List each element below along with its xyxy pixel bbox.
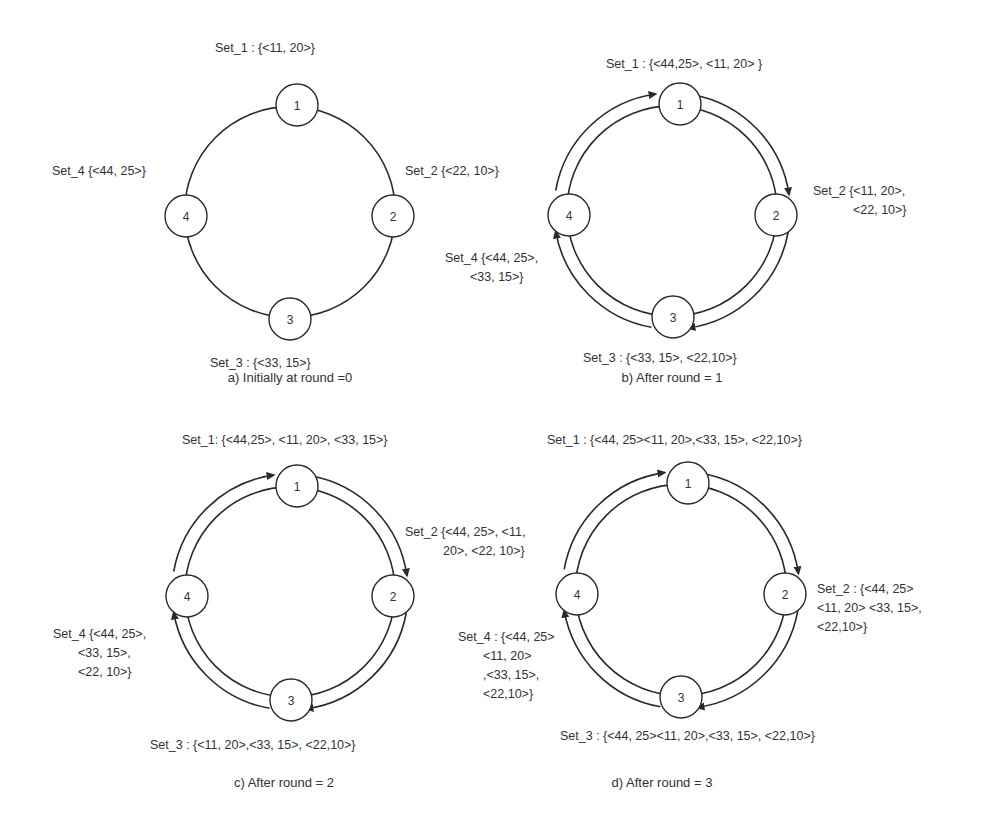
node-1: 1 bbox=[276, 465, 318, 507]
node-label: 2 bbox=[782, 588, 789, 602]
set-label-line: <11, 20> bbox=[483, 649, 531, 663]
arrow-2-to-3 bbox=[698, 611, 798, 708]
node-label: 1 bbox=[294, 99, 301, 113]
set-label-line: <33, 15>} bbox=[470, 270, 524, 284]
set-label-line: Set_3 : {<33, 15>} bbox=[210, 356, 311, 370]
set-label-line: 20>, <22, 10>} bbox=[443, 544, 525, 558]
set-label-line: Set_2 : {<44, 25> bbox=[817, 582, 914, 596]
node-label: 3 bbox=[287, 313, 294, 327]
node-label: 2 bbox=[390, 590, 397, 604]
set-label-line: Set_4 {<44, 25>} bbox=[52, 164, 146, 178]
node-label: 4 bbox=[183, 210, 190, 224]
node-3: 3 bbox=[269, 298, 311, 340]
set-label-set-2: Set_2 {<11, 20>,<22, 10>} bbox=[813, 184, 907, 217]
set-label-set-3: Set_3 : {<44, 25><11, 20>,<33, 15>, <22,… bbox=[560, 729, 815, 743]
node-3: 3 bbox=[652, 296, 694, 338]
set-label-line: Set_1 : {<44,25>, <11, 20> } bbox=[606, 57, 762, 71]
set-label-set-4: Set_4 {<44, 25>,<33, 15>} bbox=[445, 251, 538, 284]
set-label-line: <22,10>} bbox=[817, 620, 867, 634]
node-label: 4 bbox=[574, 588, 581, 602]
set-label-set-4: Set_4 {<44, 25>,<33, 15>,<22, 10>} bbox=[53, 627, 146, 679]
set-label-line: Set_2 {<11, 20>, bbox=[813, 184, 905, 198]
node-4: 4 bbox=[165, 195, 207, 237]
panel-a: 1234Set_1 : {<11, 20>}Set_2 {<22, 10>}Se… bbox=[52, 41, 499, 385]
arrow-3-to-4 bbox=[564, 611, 660, 707]
set-label-line: <22, 10>} bbox=[78, 665, 132, 679]
panel-c: 1234Set_1: {<44,25>, <11, 20>, <33, 15>}… bbox=[53, 433, 525, 790]
node-2: 2 bbox=[764, 573, 806, 615]
node-label: 3 bbox=[670, 311, 677, 325]
ring-edge bbox=[185, 487, 395, 697]
set-label-set-2: Set_2 : {<44, 25><11, 20> <33, 15>,<22,1… bbox=[817, 582, 922, 634]
set-label-set-4: Set_4 {<44, 25>} bbox=[52, 164, 146, 178]
set-label-line: Set_4 {<44, 25>, bbox=[53, 627, 146, 641]
ring-edge bbox=[575, 484, 786, 695]
set-label-set-3: Set_3 : {<33, 15>} bbox=[210, 356, 311, 370]
node-label: 1 bbox=[294, 480, 301, 494]
arrow-2-to-3 bbox=[306, 613, 406, 709]
arrow-3-to-4 bbox=[556, 232, 652, 328]
set-label-set-2: Set_2 {<44, 25>, <11,20>, <22, 10>} bbox=[405, 525, 525, 558]
set-label-line: Set_2 {<22, 10>} bbox=[405, 164, 499, 178]
arrow-1-to-2 bbox=[702, 473, 799, 573]
ring-diagram-figure: 1234Set_1 : {<11, 20>}Set_2 {<22, 10>}Se… bbox=[0, 0, 990, 836]
set-label-line: Set_4 : {<44, 25> bbox=[458, 630, 555, 644]
set-label-line: Set_1 : {<11, 20>} bbox=[215, 41, 315, 55]
set-label-line: <22, 10>} bbox=[853, 203, 907, 217]
set-label-set-1: Set_1 : {<44,25>, <11, 20> } bbox=[606, 57, 762, 71]
node-3: 3 bbox=[270, 679, 312, 721]
ring-edge bbox=[567, 106, 777, 316]
arrow-4-to-1 bbox=[174, 475, 274, 571]
node-label: 4 bbox=[184, 590, 191, 604]
node-label: 1 bbox=[677, 98, 684, 112]
panel-b: 1234Set_1 : {<44,25>, <11, 20> }Set_2 {<… bbox=[445, 57, 907, 385]
set-label-line: Set_3 : {<11, 20>,<33, 15>, <22,10>} bbox=[150, 738, 356, 752]
arrow-2-to-3 bbox=[688, 232, 788, 329]
arrow-4-to-1 bbox=[556, 94, 656, 191]
panel-d: 1234Set_1 : {<44, 25><11, 20>,<33, 15>, … bbox=[458, 433, 922, 790]
arrow-3-to-4 bbox=[174, 613, 270, 709]
node-label: 1 bbox=[685, 477, 692, 491]
set-label-set-1: Set_1 : {<44, 25><11, 20>,<33, 15>, <22,… bbox=[547, 433, 802, 447]
node-4: 4 bbox=[556, 573, 598, 615]
set-label-line: <22,10>} bbox=[483, 687, 533, 701]
set-label-line: Set_3 : {<44, 25><11, 20>,<33, 15>, <22,… bbox=[560, 729, 815, 743]
node-1: 1 bbox=[659, 83, 701, 125]
arrow-4-to-1 bbox=[564, 473, 664, 570]
node-3: 3 bbox=[660, 676, 702, 718]
node-label: 2 bbox=[773, 209, 780, 223]
set-label-line: <33, 15>, bbox=[78, 646, 131, 660]
set-label-set-1: Set_1 : {<11, 20>} bbox=[215, 41, 315, 55]
panel-caption: d) After round = 3 bbox=[612, 775, 713, 790]
node-2: 2 bbox=[372, 195, 414, 237]
set-label-line: Set_1: {<44,25>, <11, 20>, <33, 15>} bbox=[182, 433, 388, 447]
panel-caption: b) After round = 1 bbox=[622, 370, 723, 385]
set-label-line: Set_2 {<44, 25>, <11, bbox=[405, 525, 525, 539]
node-label: 2 bbox=[390, 210, 397, 224]
set-label-set-2: Set_2 {<22, 10>} bbox=[405, 164, 499, 178]
set-label-line: <11, 20> <33, 15>, bbox=[817, 601, 922, 615]
node-2: 2 bbox=[372, 575, 414, 617]
arrow-1-to-2 bbox=[311, 476, 407, 576]
node-label: 4 bbox=[566, 209, 573, 223]
panel-caption: c) After round = 2 bbox=[234, 775, 334, 790]
node-label: 3 bbox=[678, 691, 685, 705]
panel-caption: a) Initially at round =0 bbox=[228, 370, 353, 385]
set-label-line: ,<33, 15>, bbox=[483, 668, 539, 682]
node-1: 1 bbox=[276, 84, 318, 126]
set-label-set-1: Set_1: {<44,25>, <11, 20>, <33, 15>} bbox=[182, 433, 388, 447]
set-label-set-4: Set_4 : {<44, 25><11, 20>,<33, 15>,<22,1… bbox=[458, 630, 555, 701]
set-label-line: Set_1 : {<44, 25><11, 20>,<33, 15>, <22,… bbox=[547, 433, 802, 447]
node-2: 2 bbox=[755, 194, 797, 236]
set-label-line: Set_3 : {<33, 15>, <22,10>} bbox=[583, 351, 737, 365]
set-label-set-3: Set_3 : {<11, 20>,<33, 15>, <22,10>} bbox=[150, 738, 356, 752]
node-4: 4 bbox=[548, 194, 590, 236]
node-4: 4 bbox=[166, 575, 208, 617]
set-label-line: Set_4 {<44, 25>, bbox=[445, 251, 538, 265]
ring-edge bbox=[185, 107, 396, 318]
node-1: 1 bbox=[667, 462, 709, 504]
arrow-1-to-2 bbox=[693, 95, 790, 195]
set-label-set-3: Set_3 : {<33, 15>, <22,10>} bbox=[583, 351, 737, 365]
node-label: 3 bbox=[288, 694, 295, 708]
